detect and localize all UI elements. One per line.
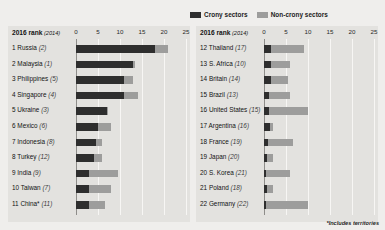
legend-swatch-noncrony-icon	[257, 12, 268, 18]
country-label: 9 India (9)	[12, 169, 41, 176]
bar-segment-noncrony	[107, 107, 108, 115]
rank-header-title: 2016 rank	[200, 29, 230, 36]
bar-segment-noncrony	[89, 185, 111, 193]
rank-column-header: 2016 rank (2014)	[200, 29, 248, 36]
country-label: 18 France (19)	[200, 138, 242, 145]
bar-segment-noncrony	[89, 170, 118, 178]
chart-row: 15 Brazil (13)	[196, 89, 378, 102]
bar-segment-crony	[76, 107, 107, 115]
x-axis-tick-label: 20	[349, 28, 356, 35]
country-name: Turkey	[16, 153, 37, 160]
bar-segment-noncrony	[269, 107, 308, 115]
bar-segment-noncrony	[271, 45, 304, 53]
country-label: 21 Poland (18)	[200, 184, 242, 191]
stacked-bar	[76, 61, 135, 69]
chart-panel-left-inner: 05101520252016 rank (2014)1 Russia (2)2 …	[8, 26, 190, 222]
country-previous-rank: (22)	[235, 200, 248, 207]
country-name: Russia	[16, 44, 37, 51]
bar-segment-crony	[76, 154, 94, 162]
legend-item-crony: Crony sectors	[190, 11, 248, 18]
country-previous-rank: (20)	[226, 153, 239, 160]
bar-segment-crony	[76, 185, 89, 193]
chart-row: 21 Poland (18)	[196, 182, 378, 195]
chart-row: 20 S. Korea (21)	[196, 167, 378, 180]
country-previous-rank: (9)	[31, 169, 41, 176]
country-name: United States	[207, 106, 247, 113]
chart-row: 5 Ukraine (3)	[8, 104, 190, 117]
country-previous-rank: (10)	[233, 60, 246, 67]
country-name: Germany	[207, 200, 235, 207]
country-label: 8 Turkey (12)	[12, 153, 50, 160]
country-previous-rank: (3)	[39, 106, 49, 113]
country-label: 17 Argentina (16)	[200, 122, 249, 129]
stacked-bar	[76, 45, 168, 53]
country-name: Argentina	[207, 122, 236, 129]
x-axis-tick-label: 20	[161, 28, 168, 35]
country-label: 2 Malaysia (1)	[12, 60, 52, 67]
country-label: 11 China* (11)	[12, 200, 52, 207]
country-name: Singapore	[16, 91, 47, 98]
country-name: Brazil	[207, 91, 225, 98]
stacked-bar	[264, 107, 308, 115]
country-previous-rank: (14)	[227, 75, 240, 82]
country-label: 3 Philippines (5)	[12, 75, 58, 82]
rank-column-header: 2016 rank (2014)	[12, 29, 60, 36]
country-label: 6 Mexico (6)	[12, 122, 47, 129]
stacked-bar	[76, 107, 108, 115]
bar-segment-noncrony	[89, 201, 104, 209]
chart-row: 17 Argentina (16)	[196, 120, 378, 133]
legend-item-noncrony: Non-crony sectors	[257, 11, 328, 18]
x-axis-tick-label: 25	[371, 28, 378, 35]
country-previous-rank: (21)	[234, 169, 247, 176]
rank-header-title: 2016 rank	[12, 29, 42, 36]
country-name: Thailand	[207, 44, 233, 51]
country-previous-rank: (19)	[229, 138, 242, 145]
bar-segment-noncrony	[267, 185, 273, 193]
bar-segment-crony	[76, 201, 89, 209]
country-label: 13 S. Africa (10)	[200, 60, 246, 67]
chart-row: 7 Indonesia (8)	[8, 136, 190, 149]
country-previous-rank: (6)	[38, 122, 48, 129]
stacked-bar	[264, 61, 290, 69]
bar-segment-noncrony	[94, 154, 103, 162]
x-axis-tick-label: 5	[284, 28, 287, 35]
chart-row: 2 Malaysia (1)	[8, 58, 190, 71]
chart-row: 10 Taiwan (7)	[8, 182, 190, 195]
rank-header-year: (2014)	[42, 30, 60, 36]
stacked-bar	[76, 76, 133, 84]
country-label: 22 Germany (22)	[200, 200, 248, 207]
country-name: France	[207, 138, 229, 145]
country-previous-rank: (18)	[229, 184, 242, 191]
chart-row: 11 China* (11)	[8, 198, 190, 211]
country-name: India	[16, 169, 32, 176]
bar-segment-noncrony	[271, 76, 289, 84]
bar-segment-noncrony	[124, 76, 133, 84]
stacked-bar	[264, 139, 293, 147]
stacked-bar	[264, 92, 290, 100]
country-label: 7 Indonesia (8)	[12, 138, 55, 145]
chart-row: 9 India (9)	[8, 167, 190, 180]
stacked-bar	[76, 92, 138, 100]
bar-segment-noncrony	[267, 154, 273, 162]
bar-segment-crony	[76, 123, 98, 131]
bar-segment-noncrony	[269, 92, 290, 100]
x-axis-tick-label: 10	[117, 28, 124, 35]
chart-row: 19 Japan (20)	[196, 151, 378, 164]
chart-row: 22 Germany (22)	[196, 198, 378, 211]
bar-segment-noncrony	[155, 45, 168, 53]
bar-segment-noncrony	[266, 170, 290, 178]
chart-row: 8 Turkey (12)	[8, 151, 190, 164]
bar-segment-noncrony	[98, 123, 111, 131]
bar-segment-noncrony	[271, 61, 291, 69]
country-label: 15 Brazil (13)	[200, 91, 238, 98]
stacked-bar	[264, 201, 308, 209]
country-previous-rank: (15)	[247, 106, 260, 113]
stacked-bar	[76, 201, 105, 209]
country-previous-rank: (1)	[43, 60, 53, 67]
chart-row: 6 Mexico (6)	[8, 120, 190, 133]
country-label: 14 Britain (14)	[200, 75, 240, 82]
country-label: 10 Taiwan (7)	[12, 184, 50, 191]
x-axis-tick-label: 5	[96, 28, 99, 35]
x-axis-tick-label: 25	[183, 28, 190, 35]
chart-row: 13 S. Africa (10)	[196, 58, 378, 71]
